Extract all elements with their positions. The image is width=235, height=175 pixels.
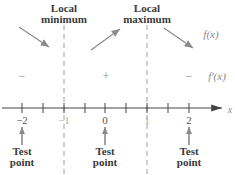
decreasing-arrow-icon bbox=[19, 27, 49, 47]
label-line: maximum bbox=[121, 14, 173, 25]
derivative-label: f′(x) bbox=[202, 71, 232, 82]
increasing-arrow-icon bbox=[91, 29, 120, 50]
tick-label: −2 bbox=[12, 115, 32, 126]
sign-negative: − bbox=[183, 71, 195, 82]
tick-label: 0 bbox=[95, 115, 115, 126]
sign-positive: + bbox=[100, 71, 112, 82]
test-point-label: Test point bbox=[169, 146, 209, 168]
sign-negative: − bbox=[16, 71, 28, 82]
test-point-label: Test point bbox=[85, 146, 125, 168]
axis-label: x bbox=[225, 104, 235, 115]
label-line: point bbox=[85, 157, 125, 168]
label-line: point bbox=[2, 157, 42, 168]
local-minimum-label: Local minimum bbox=[39, 3, 89, 25]
tick-label: −1 bbox=[54, 115, 74, 126]
function-label: f(x) bbox=[196, 29, 226, 40]
tick-label: 2 bbox=[179, 115, 199, 126]
tick-label: 1 bbox=[137, 115, 157, 126]
test-point-label: Test point bbox=[2, 146, 42, 168]
local-maximum-label: Local maximum bbox=[121, 3, 173, 25]
label-line: minimum bbox=[39, 14, 89, 25]
label-line: point bbox=[169, 157, 209, 168]
decreasing-arrow-icon bbox=[164, 28, 193, 48]
